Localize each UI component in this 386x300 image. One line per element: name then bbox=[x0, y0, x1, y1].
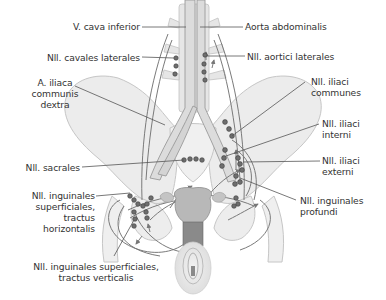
label-line: communis bbox=[20, 88, 90, 99]
label-line: dextra bbox=[20, 99, 90, 110]
pelvic-organs bbox=[160, 187, 226, 294]
label-nll-iliaci-interni: Nll. iliaci interni bbox=[322, 118, 360, 140]
label-line: superficiales, bbox=[10, 201, 95, 212]
leader-cavales bbox=[142, 57, 174, 58]
leader-inguinales-sup-horiz bbox=[96, 193, 130, 196]
label-line: communes bbox=[311, 87, 361, 98]
left-ilium bbox=[208, 76, 321, 203]
pelvic-lymph-diagram: V. cava inferior Aorta abdominalis Nll. … bbox=[0, 0, 386, 300]
label-line: Nll. inguinales bbox=[10, 190, 95, 201]
label-line: Nll. inguinales superficiales, bbox=[26, 261, 166, 272]
label-aorta-abdominalis: Aorta abdominalis bbox=[245, 21, 327, 32]
label-line: Nll. iliaci bbox=[311, 76, 361, 87]
label-line: Nll. inguinales bbox=[300, 195, 363, 206]
cavales-laterales-nodes bbox=[173, 56, 178, 76]
label-nll-inguinales-profundi: Nll. inguinales profundi bbox=[300, 195, 363, 217]
label-nll-inguinales-superficiales-horizontalis: Nll. inguinales superficiales, tractus h… bbox=[10, 190, 95, 234]
label-line: Nll. iliaci bbox=[322, 118, 360, 129]
label-line: tractus bbox=[10, 212, 95, 223]
label-line: A. iliaca bbox=[20, 77, 90, 88]
anatomy-illustration bbox=[0, 0, 386, 300]
label-line: tractus verticalis bbox=[26, 272, 166, 283]
label-nll-inguinales-superficiales-verticalis: Nll. inguinales superficiales, tractus v… bbox=[26, 261, 166, 283]
label-line: profundi bbox=[300, 206, 363, 217]
label-nll-iliaci-externi: Nll. iliaci externi bbox=[322, 155, 360, 177]
label-line: interni bbox=[322, 129, 360, 140]
label-line: horizontalis bbox=[10, 223, 95, 234]
pubic-arch-left bbox=[214, 196, 255, 240]
label-nll-cavales-laterales: Nll. cavales laterales bbox=[20, 52, 140, 63]
label-nll-sacrales: Nll. sacrales bbox=[10, 162, 80, 173]
label-line: externi bbox=[322, 166, 360, 177]
left-femur bbox=[262, 196, 284, 262]
label-nll-aortici-laterales: Nll. aortici laterales bbox=[247, 51, 334, 62]
label-a-iliaca-communis-dextra: A. iliaca communis dextra bbox=[20, 77, 90, 110]
uterus bbox=[174, 187, 211, 226]
label-v-cava-inferior: V. cava inferior bbox=[40, 21, 140, 32]
label-line: Nll. iliaci bbox=[322, 155, 360, 166]
label-nll-iliaci-communes: Nll. iliaci communes bbox=[311, 76, 361, 98]
